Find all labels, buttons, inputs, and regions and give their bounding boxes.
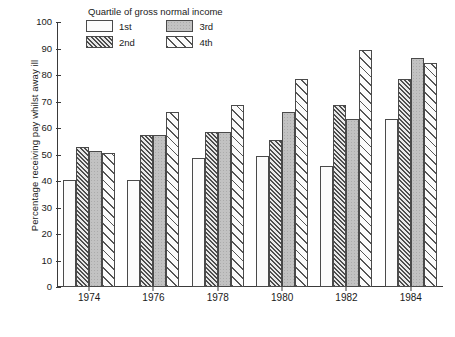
bar[interactable] [127,180,140,287]
legend-swatch-1st [86,20,113,32]
bar[interactable] [411,58,424,287]
bar[interactable] [320,166,333,287]
x-tick-label: 1982 [314,292,378,303]
y-tick-label: 90 [41,44,52,54]
legend-label: 4th [199,37,212,48]
bar-group [379,22,443,287]
bar[interactable] [424,63,437,287]
bar[interactable] [282,112,295,287]
legend-items: 1st3rd2nd4th [86,20,223,48]
y-tick-label: 30 [41,203,52,213]
bar[interactable] [166,112,179,287]
x-tick-mark [282,287,283,291]
bar-chart: Percentage receiving pay whilst away ill… [0,0,455,337]
legend-swatch-4th [166,36,193,48]
bar[interactable] [192,158,205,287]
legend-swatch-2nd [86,36,113,48]
legend-label: 2nd [119,37,135,48]
bar-group [121,22,185,287]
legend: Quartile of gross normal income 1st3rd2n… [86,6,223,48]
bar[interactable] [333,105,346,287]
bar[interactable] [218,132,231,287]
y-tick-mark [56,287,61,288]
y-tick-label: 50 [41,150,52,160]
bar[interactable] [153,135,166,287]
x-tick-label: 1980 [250,292,314,303]
x-tick-label: 1974 [57,292,121,303]
bar[interactable] [89,151,102,287]
bar-group [57,22,121,287]
x-tick-label: 1976 [121,292,185,303]
y-tick-label: 0 [47,282,52,292]
legend-swatch-3rd [166,20,193,32]
y-tick-label: 80 [41,70,52,80]
y-tick-label: 60 [41,123,52,133]
bar[interactable] [256,156,269,287]
x-tick-label: 1978 [186,292,250,303]
x-tick-mark [410,287,411,291]
legend-label: 1st [119,21,132,32]
bar[interactable] [385,119,398,287]
bar-groups [57,22,443,287]
x-tick-label: 1984 [379,292,443,303]
x-tick-mark [346,287,347,291]
bar[interactable] [140,135,153,287]
y-tick-label: 70 [41,97,52,107]
x-tick-mark [89,287,90,291]
bar-group [250,22,314,287]
x-axis-labels: 197419761978198019821984 [57,292,443,303]
y-tick-label: 10 [41,256,52,266]
y-axis-title: Percentage receiving pay whilst away ill [29,16,40,276]
bar[interactable] [63,180,76,287]
y-tick-label: 100 [36,17,52,27]
legend-label: 3rd [199,21,213,32]
legend-title: Quartile of gross normal income [88,6,223,17]
bar[interactable] [76,147,89,287]
y-tick-label: 20 [41,229,52,239]
bar-group [314,22,378,287]
bar-group [186,22,250,287]
x-tick-mark [217,287,218,291]
bar[interactable] [102,153,115,287]
y-tick-label: 40 [41,176,52,186]
x-tick-mark [153,287,154,291]
legend-item-1st[interactable]: 1st [86,20,144,32]
bar[interactable] [398,79,411,287]
legend-item-4th[interactable]: 4th [166,36,222,48]
plot-area: 0102030405060708090100 [57,22,443,287]
legend-item-3rd[interactable]: 3rd [166,20,222,32]
legend-item-2nd[interactable]: 2nd [86,36,144,48]
bar[interactable] [205,132,218,287]
bar[interactable] [346,119,359,287]
bar[interactable] [359,50,372,287]
bar[interactable] [295,79,308,287]
bar[interactable] [231,105,244,287]
bar[interactable] [269,140,282,287]
